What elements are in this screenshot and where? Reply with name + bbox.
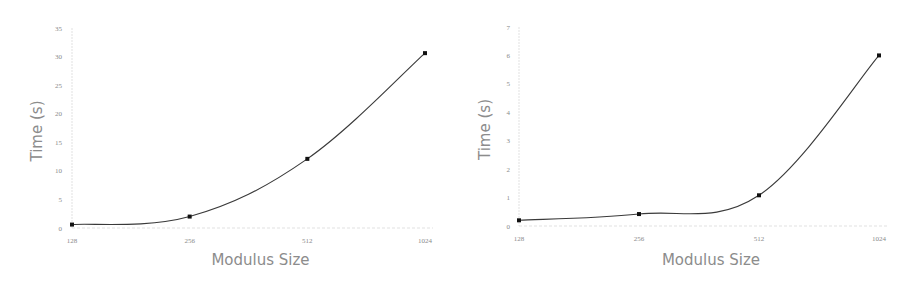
x-tick-label: 128 [67,237,78,245]
y-tick-label: 5 [507,80,511,88]
y-tick-label: 6 [507,52,511,60]
y-tick-label: 2 [507,166,511,174]
chart-right: 012345671282565121024Modulus SizeTime (s… [462,0,924,285]
y-tick-label: 35 [55,25,63,33]
data-point-marker [188,215,192,219]
y-tick-label: 5 [59,196,63,204]
x-tick-label: 512 [302,237,313,245]
x-axis-title: Modulus Size [662,251,760,269]
y-tick-label: 1 [507,194,511,202]
y-tick-label: 10 [55,167,63,175]
y-tick-label: 30 [55,53,63,61]
data-point-marker [423,51,427,55]
x-tick-label: 512 [754,235,765,243]
data-point-marker [757,193,761,197]
y-axis-title: Time (s) [476,99,494,161]
data-line [72,53,425,224]
data-point-marker [517,218,521,222]
chart-left: 051015202530351282565121024Modulus SizeT… [0,0,462,285]
chart-right-plot: 012345671282565121024Modulus SizeTime (s… [462,0,924,285]
y-tick-label: 25 [55,82,63,90]
data-point-marker [305,157,309,161]
data-point-marker [637,212,641,216]
y-tick-label: 15 [55,139,63,147]
x-tick-label: 256 [184,237,195,245]
y-tick-label: 0 [59,225,63,233]
x-tick-label: 256 [634,235,645,243]
y-tick-label: 3 [507,137,511,145]
data-point-marker [877,53,881,57]
y-tick-label: 4 [507,109,511,117]
data-point-marker [70,223,74,227]
x-tick-label: 128 [514,235,525,243]
x-tick-label: 1024 [418,237,433,245]
y-axis-title: Time (s) [28,101,46,163]
data-line [519,55,879,220]
y-tick-label: 20 [55,110,63,118]
x-tick-label: 1024 [872,235,887,243]
y-tick-label: 0 [507,223,511,231]
chart-left-plot: 051015202530351282565121024Modulus SizeT… [0,0,462,285]
y-tick-label: 7 [507,24,511,32]
x-axis-title: Modulus Size [211,251,309,269]
